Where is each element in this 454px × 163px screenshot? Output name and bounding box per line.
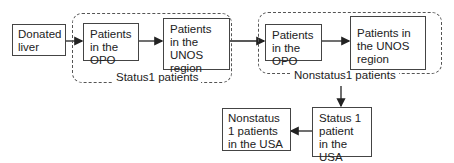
donated-liver-node: Donated liver <box>12 24 66 56</box>
nonstatus1-patients-label: Nonstatus1 patients <box>291 69 399 81</box>
status1-unos-node: Patients in the UNOS region <box>163 18 230 70</box>
status1-usa-node: Status 1 patient in the USA <box>312 107 372 157</box>
nonstatus1-opo-node: Patients in the OPO <box>265 24 322 61</box>
nonstatus1-usa-node: Nonstatus 1 patients in the USA <box>222 108 291 151</box>
nonstatus1-unos-node: Patients in the UNOS region <box>350 16 426 70</box>
status1-opo-node: Patients in the OPO <box>83 23 139 61</box>
